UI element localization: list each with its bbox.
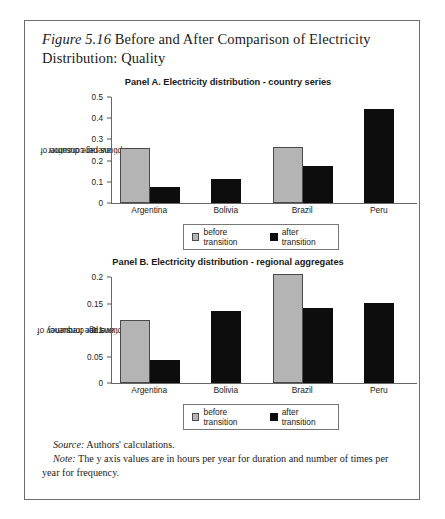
footer-note-text: The y axis values are in hours per year … [42,453,388,478]
bar-group [265,277,341,383]
legend-label-before: before transition [203,227,258,247]
bar-after [364,109,394,203]
x-axis-label: Peru [341,385,418,395]
y-tick-label: 0.1 [92,326,103,335]
bar-group [188,97,264,203]
panel-a-plot: average duration of interruptions per co… [25,93,421,221]
bar-after [150,187,180,203]
panel-b-plot-area [111,277,417,384]
bar-after [211,311,241,383]
footer-source: Source: Authors' calculations. [42,438,402,452]
bar-group [341,277,417,383]
y-tick-label: 0.15 [87,299,103,308]
bar-before [273,274,303,383]
panel-b-legend: before transition after transition [183,404,339,430]
x-axis-label: Peru [341,205,418,215]
bar-after [364,303,394,383]
panel-b-x-labels: ArgentinaBoliviaBrazilPeru [111,385,417,395]
panel-a: Panel A. Electricity distribution - coun… [25,77,421,221]
bar-after [303,166,333,203]
legend-label-after: after transition [282,227,330,247]
panel-a-bar-groups [112,97,417,203]
y-tick-label: 0 [98,379,103,388]
panel-b-plot: average frequency of interruptions per c… [25,273,421,401]
bar-group [112,97,188,203]
x-axis-label: Argentina [111,385,188,395]
legend-swatch-before-icon [192,233,199,241]
figure-title: Figure 5.16 Before and After Comparison … [42,30,402,67]
y-tick-label: 0 [98,199,103,208]
footer-note: Note: The y axis values are in hours per… [42,452,402,480]
footer-note-label: Note: [53,453,76,464]
y-tick-label: 0.1 [92,177,103,186]
bar-group [188,277,264,383]
panel-a-legend: before transition after transition [183,224,339,250]
bar-before [120,148,150,203]
figure-number: Figure 5.16 [42,31,111,47]
x-axis-label: Argentina [111,205,188,215]
bar-group [341,97,417,203]
y-tick-label: 0.2 [92,273,103,282]
y-tick-label: 0.5 [92,93,103,102]
bar-group [112,277,188,383]
legend-swatch-before-icon [192,413,199,421]
legend-item-after: after transition [270,227,330,247]
bar-before [273,147,303,203]
legend-swatch-after-icon [270,233,277,241]
y-tick-label: 0.3 [92,135,103,144]
y-tick-label: 0.2 [92,156,103,165]
panel-b: Panel B. Electricity distribution - regi… [25,257,421,401]
panel-a-title: Panel A. Electricity distribution - coun… [25,77,421,87]
legend-item-after: after transition [270,407,330,427]
legend-item-before: before transition [192,227,258,247]
legend-swatch-after-icon [270,413,277,421]
footer-source-label: Source: [53,439,84,450]
panel-a-y-ticks: 00.10.20.30.40.5 [81,97,107,203]
bar-after [303,308,333,383]
bar-before [120,320,150,383]
panel-b-y-ticks: 00.050.10.150.2 [81,277,107,383]
footer-source-text: Authors' calculations. [84,439,174,450]
y-tick-label: 0.05 [87,352,103,361]
bar-group [265,97,341,203]
bar-after [150,360,180,383]
x-axis-label: Bolivia [188,205,265,215]
figure-footer: Source: Authors' calculations. Note: The… [42,438,402,479]
x-axis-label: Bolivia [188,385,265,395]
legend-item-before: before transition [192,407,258,427]
x-axis-label: Brazil [264,205,341,215]
legend-label-after: after transition [282,407,330,427]
panel-b-title: Panel B. Electricity distribution - regi… [25,257,421,267]
legend-label-before: before transition [203,407,258,427]
figure-frame: Figure 5.16 Before and After Comparison … [24,20,420,500]
bar-after [211,179,241,203]
panel-a-plot-area [111,97,417,204]
x-axis-label: Brazil [264,385,341,395]
y-tick-label: 0.4 [92,114,103,123]
panel-b-bar-groups [112,277,417,383]
panel-a-x-labels: ArgentinaBoliviaBrazilPeru [111,205,417,215]
